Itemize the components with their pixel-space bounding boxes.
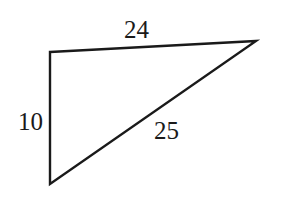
triangle-shape [50, 41, 256, 184]
label-top-side: 24 [124, 16, 150, 43]
label-hypotenuse: 25 [154, 117, 179, 144]
triangle-diagram: 24 10 25 [0, 0, 291, 223]
label-left-side: 10 [18, 108, 43, 135]
